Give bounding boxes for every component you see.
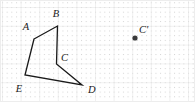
vertex-label-b: B: [53, 8, 60, 19]
vertex-label-c: C: [61, 52, 69, 63]
vertex-label-d: D: [87, 84, 96, 95]
figure-canvas: A B C D E C': [0, 0, 195, 102]
point-c-prime-marker: [132, 35, 137, 40]
geometry-figure: A B C D E C': [0, 0, 195, 102]
grid-major-lines: [0, 0, 195, 102]
vertex-label-e: E: [15, 83, 23, 94]
point-label-c-prime: C': [139, 24, 149, 35]
vertex-label-a: A: [22, 21, 30, 32]
